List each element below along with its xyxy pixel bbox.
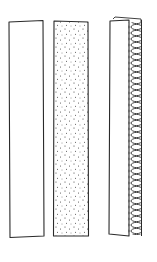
plain-strip	[9, 21, 44, 238]
coiled-strip	[109, 17, 142, 236]
sketch-canvas	[0, 0, 157, 262]
stippled-strip	[54, 21, 89, 236]
coil-edge	[129, 22, 142, 235]
